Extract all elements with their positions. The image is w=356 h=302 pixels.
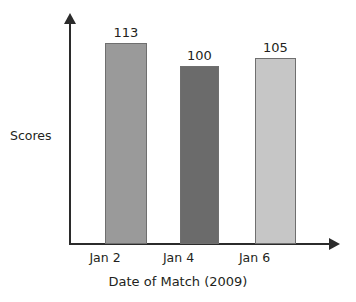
bar-jan-4 (180, 66, 219, 244)
x-tick-label-jan-6: Jan 6 (234, 250, 275, 265)
plot-area: 113 100 105 (71, 22, 330, 244)
bar-jan-2 (105, 43, 147, 244)
x-tick-label-jan-2: Jan 2 (84, 250, 126, 265)
bar-chart: Scores 113 100 105 Jan 2 Jan 4 Jan 6 Dat… (0, 0, 356, 302)
bar-value-label: 105 (255, 40, 296, 55)
bar-jan-6 (255, 58, 296, 244)
x-tick-label-jan-4: Jan 4 (159, 250, 198, 265)
bar-value-label: 113 (105, 25, 147, 40)
y-axis-title: Scores (10, 128, 52, 143)
bar-value-label: 100 (180, 48, 219, 63)
x-axis-title: Date of Match (2009) (0, 274, 356, 289)
x-axis-arrow-icon (329, 238, 340, 250)
